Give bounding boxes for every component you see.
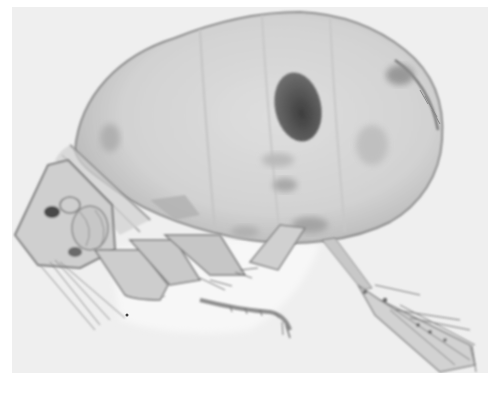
micrograph-photo	[12, 7, 488, 373]
debris-speck	[126, 314, 129, 317]
copepod-illustration	[12, 7, 488, 373]
image-canvas: Microscope photograph of a copepod with …	[0, 0, 493, 398]
eye-spot	[44, 206, 60, 218]
